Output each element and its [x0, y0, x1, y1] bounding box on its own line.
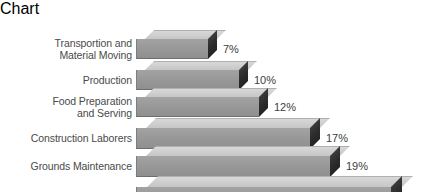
bar	[136, 118, 320, 149]
value-label: 10%	[254, 75, 276, 86]
bar-front-face	[136, 70, 239, 90]
bar	[136, 61, 248, 90]
bar-front-face	[136, 97, 259, 117]
bar-front-face	[136, 156, 330, 177]
category-label: Construction Laborers	[0, 132, 132, 144]
category-label: Grounds Maintenance	[0, 160, 132, 172]
bar-row: Transportion and Material Moving7%	[0, 30, 431, 59]
bar-row: Grounds Maintenance19%	[0, 146, 431, 177]
bar-row: Production10%	[0, 61, 431, 90]
bar-row: Agricultural Workers25%	[0, 176, 431, 192]
value-label: 19%	[346, 161, 368, 172]
bar-chart: Transportion and Material Moving7%Produc…	[0, 18, 431, 192]
bar-row: Food Preparation and Serving12%	[0, 88, 431, 117]
bar-front-face	[136, 39, 208, 59]
bar-top-face	[147, 176, 413, 187]
bar	[136, 30, 217, 59]
bar-top-face	[146, 118, 330, 128]
category-label: Production	[0, 74, 132, 86]
bar-front-face	[136, 187, 391, 192]
bar-top-face	[146, 146, 350, 156]
category-label: Transportion and Material Moving	[0, 37, 132, 61]
bar-top-face	[145, 88, 277, 97]
bar-row: Construction Laborers17%	[0, 118, 431, 149]
bar	[136, 146, 340, 177]
category-label: Food Preparation and Serving	[0, 95, 132, 119]
value-label: 7%	[223, 44, 239, 55]
bar	[136, 88, 268, 117]
bar	[136, 176, 402, 192]
value-label: 12%	[274, 102, 296, 113]
value-label: 17%	[326, 133, 348, 144]
